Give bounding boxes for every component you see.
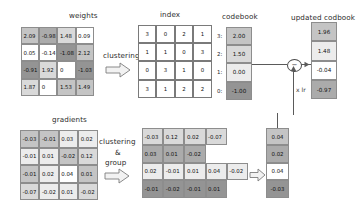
weights-matrix: 2.09-0.981.480.090.05-0.14-1.082.12-0.91… xyxy=(21,27,94,96)
gradients-cell-r2c0: -0.01 xyxy=(20,165,39,183)
index-cell-r1c1: 1 xyxy=(156,43,174,61)
grouped-gradients-cell-r3c0: -0.01 xyxy=(142,180,163,197)
gradients-cell-r1c0: -0.01 xyxy=(20,148,39,166)
codebook-cell-2: 0.00 xyxy=(226,63,252,81)
gradients-cell-r0c2: 0.03 xyxy=(59,130,78,148)
weights-cell-r0c0: 2.09 xyxy=(21,27,39,44)
index-cell-r1c3: 3 xyxy=(193,43,211,61)
weights-cell-r2c1: 1.92 xyxy=(39,61,57,78)
summed-gradients-cell-2: 0.04 xyxy=(266,163,289,180)
codebook-key-0: 3: xyxy=(217,27,222,45)
grouped-gradients-cell-r0c2: 0.02 xyxy=(184,128,205,145)
updated-codebook-column: 1.961.48-0.04-0.97 xyxy=(311,22,337,99)
gradients-cell-r0c3: 0.02 xyxy=(78,130,97,148)
lr-to-subtract-wire xyxy=(293,70,294,115)
codebook-cell-3: -1.00 xyxy=(226,82,252,100)
weights-cell-r2c0: -0.91 xyxy=(21,61,39,78)
summed-gradients-cell-3: -0.03 xyxy=(266,180,289,197)
codebook-key-list: 3:2:1:0: xyxy=(217,27,222,100)
grouped-gradients-cell-r3c1: -0.02 xyxy=(163,180,184,197)
updated-codebook-title: updated codbook xyxy=(291,13,355,22)
codebook-to-subtract-wire xyxy=(252,64,287,65)
gradients-cell-r2c3: 0.01 xyxy=(78,165,97,183)
weights-title: weights xyxy=(69,11,98,20)
grouped-gradients-cell-r1c2: -0.02 xyxy=(184,145,205,162)
grouped-gradients-cell-r1c0: 0.03 xyxy=(142,145,163,162)
clustering-group-label-line3: group xyxy=(105,158,126,167)
gradients-title: gradients xyxy=(52,115,87,124)
weights-cell-r3c1: 0 xyxy=(39,79,57,96)
grouped-gradients-cell-r1c4 xyxy=(227,145,248,162)
subtract-output-arrow-icon xyxy=(303,61,310,68)
weights-cell-r0c1: -0.98 xyxy=(39,27,57,44)
gradients-cell-r0c1: -0.01 xyxy=(39,130,58,148)
codebook-cell-1: 1.50 xyxy=(226,45,252,63)
index-cell-r0c1: 0 xyxy=(156,25,174,43)
summed-gradients-column: 0.040.020.04-0.03 xyxy=(266,128,289,198)
grouped-gradients-cell-r1c1: 0.01 xyxy=(163,145,184,162)
index-matrix: 3021110303103122 xyxy=(138,25,212,98)
index-cell-r0c0: 3 xyxy=(138,25,156,43)
gradients-matrix: -0.03-0.010.030.02-0.010.01-0.020.12-0.0… xyxy=(20,130,98,200)
grouped-gradients-cell-r3c2: -0.01 xyxy=(184,180,205,197)
weights-cell-r1c2: -1.08 xyxy=(57,44,75,61)
reduce-arrow-icon xyxy=(249,168,266,182)
grouped-gradients-cell-r0c0: -0.03 xyxy=(142,128,163,145)
grouped-gradients-cell-r2c0: 0.02 xyxy=(142,163,163,180)
weights-cell-r0c3: 0.09 xyxy=(76,27,94,44)
index-cell-r2c1: 3 xyxy=(156,61,174,79)
updated-codebook-cell-2: -0.04 xyxy=(311,61,337,80)
gradients-cell-r3c3: -0.02 xyxy=(78,183,97,201)
summed-gradients-to-lr-wire xyxy=(277,113,278,128)
index-cell-r2c2: 1 xyxy=(175,61,193,79)
grouped-gradients-cell-r2c2: 0.01 xyxy=(184,163,205,180)
clustering-group-label-line2: & xyxy=(115,148,121,157)
clustering-label: clustering xyxy=(103,51,140,60)
index-cell-r3c1: 1 xyxy=(156,80,174,98)
clustering-group-label-line1: clustering xyxy=(99,137,136,146)
weights-cell-r3c3: 1.49 xyxy=(76,79,94,96)
grouped-gradients-cell-r3c4 xyxy=(227,180,248,197)
grouped-gradients-cell-r1c3 xyxy=(206,145,227,162)
grouped-gradients-cell-r3c3: 0.01 xyxy=(206,180,227,197)
updated-codebook-cell-0: 1.96 xyxy=(311,22,337,41)
index-cell-r1c2: 0 xyxy=(175,43,193,61)
gradients-cell-r3c2: 0.01 xyxy=(59,183,78,201)
weights-cell-r2c2: 0 xyxy=(57,61,75,78)
codebook-key-3: 0: xyxy=(217,82,222,100)
grouped-gradients-cell-r0c3: -0.07 xyxy=(206,128,227,145)
gradients-cell-r3c0: -0.07 xyxy=(20,183,39,201)
updated-codebook-cell-1: 1.48 xyxy=(311,41,337,60)
grouped-gradients-matrix: -0.030.120.02-0.070.030.01-0.020.02-0.01… xyxy=(142,128,248,198)
figure-canvas: weights index codebook updated codbook g… xyxy=(0,0,362,223)
gradients-cell-r3c1: -0.02 xyxy=(39,183,58,201)
summed-gradients-cell-0: 0.04 xyxy=(266,128,289,145)
weights-cell-r0c2: 1.48 xyxy=(57,27,75,44)
grouped-gradients-cell-r2c3: 0.04 xyxy=(206,163,227,180)
codebook-title: codebook xyxy=(222,12,258,21)
index-cell-r3c3: 2 xyxy=(193,80,211,98)
codebook-column: 2.001.500.00-1.00 xyxy=(226,27,252,100)
updated-codebook-cell-3: -0.97 xyxy=(311,80,337,99)
index-cell-r2c0: 0 xyxy=(138,61,156,79)
weights-cell-r3c0: 1.87 xyxy=(21,79,39,96)
gradients-cell-r2c2: 0.04 xyxy=(59,165,78,183)
grouped-gradients-cell-r2c1: -0.01 xyxy=(163,163,184,180)
subtract-input-arrow-icon xyxy=(290,66,297,73)
gradients-cell-r2c1: 0.02 xyxy=(39,165,58,183)
codebook-key-2: 1: xyxy=(217,63,222,81)
grouped-gradients-cell-r0c4 xyxy=(227,128,248,145)
gradients-cell-r0c0: -0.03 xyxy=(20,130,39,148)
weights-cell-r1c1: -0.14 xyxy=(39,44,57,61)
index-cell-r2c3: 0 xyxy=(193,61,211,79)
index-cell-r3c2: 2 xyxy=(175,80,193,98)
weights-cell-r3c2: 1.53 xyxy=(57,79,75,96)
grouped-gradients-cell-r2c4: -0.02 xyxy=(227,163,248,180)
gradients-cell-r1c3: 0.12 xyxy=(78,148,97,166)
gradients-cell-r1c2: -0.02 xyxy=(59,148,78,166)
clustering-group-arrow-icon xyxy=(104,168,130,184)
index-cell-r3c0: 3 xyxy=(138,80,156,98)
learning-rate-label: x lr xyxy=(296,86,306,93)
grouped-gradients-cell-r0c1: 0.12 xyxy=(163,128,184,145)
codebook-key-1: 2: xyxy=(217,45,222,63)
